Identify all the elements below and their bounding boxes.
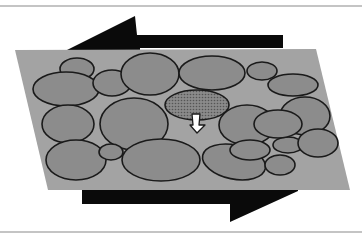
grain bbox=[230, 140, 270, 160]
top-shear-arrow-icon bbox=[67, 16, 283, 50]
grain bbox=[265, 155, 295, 175]
shear-diagram: Granular shear diagram bbox=[0, 0, 362, 235]
bottom-shear-arrow-icon bbox=[82, 188, 298, 222]
grain bbox=[254, 110, 302, 138]
grain bbox=[179, 56, 245, 90]
grain bbox=[121, 53, 179, 95]
grain bbox=[99, 144, 123, 160]
grain bbox=[298, 129, 338, 157]
grain bbox=[268, 74, 318, 96]
grain bbox=[247, 62, 277, 80]
grain bbox=[33, 72, 99, 106]
grain bbox=[122, 139, 200, 181]
grain bbox=[46, 140, 106, 180]
grain bbox=[42, 105, 94, 143]
